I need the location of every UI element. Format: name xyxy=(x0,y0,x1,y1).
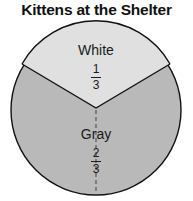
gray-denominator: 3 xyxy=(93,162,100,176)
gray-numerator: 2 xyxy=(93,146,100,160)
white-denominator: 3 xyxy=(93,78,100,92)
white-numerator: 1 xyxy=(93,62,100,76)
white-fraction: 1 3 xyxy=(86,63,106,92)
white-label: White xyxy=(66,42,126,58)
gray-fraction: 2 3 xyxy=(86,147,106,176)
gray-label: Gray xyxy=(66,126,126,142)
